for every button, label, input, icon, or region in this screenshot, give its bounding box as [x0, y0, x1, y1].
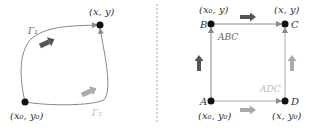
- start-point: [22, 99, 29, 106]
- point-b-coord: (x₀, y): [199, 4, 229, 15]
- point-a: [208, 98, 215, 105]
- point-b: [208, 21, 215, 28]
- point-c: [282, 21, 289, 28]
- start-label: (x₀, y₀): [10, 110, 44, 121]
- light-arrow-right-icon: [240, 106, 256, 115]
- path-gamma2: [25, 29, 108, 105]
- point-d-coord: (x, y₀): [272, 110, 302, 121]
- end-point: [97, 22, 104, 29]
- point-b-name: B: [199, 19, 207, 30]
- point-c-coord: (x, y): [274, 4, 300, 15]
- right-panel: (x₀, y) (x, y) (x₀, y₀) (x, y₀) B C A D …: [195, 4, 302, 121]
- path-independence-diagram: (x, y) (x₀, y₀) Γ₁ Γ₂ (x₀, y) (x, y) (x₀…: [0, 0, 311, 132]
- path-abc-label: ABC: [217, 32, 238, 42]
- dark-arrow-right-icon: [240, 13, 256, 22]
- gamma2-label: Γ₂: [91, 108, 102, 118]
- point-c-name: C: [291, 19, 299, 30]
- point-d: [282, 98, 289, 105]
- point-a-name: A: [199, 96, 207, 107]
- dark-arrow-icon: [38, 35, 57, 51]
- left-panel: (x, y) (x₀, y₀) Γ₁ Γ₂: [10, 6, 115, 121]
- dark-arrow-up-icon: [195, 55, 204, 71]
- light-arrow-icon: [80, 84, 99, 100]
- point-a-coord: (x₀, y₀): [198, 110, 232, 121]
- path-adc-label: ADC: [259, 84, 281, 94]
- point-d-name: D: [290, 96, 299, 107]
- light-arrow-up-icon: [288, 55, 297, 71]
- path-gamma1: [21, 25, 97, 102]
- gamma1-label: Γ₁: [27, 26, 38, 36]
- end-label: (x, y): [89, 6, 115, 17]
